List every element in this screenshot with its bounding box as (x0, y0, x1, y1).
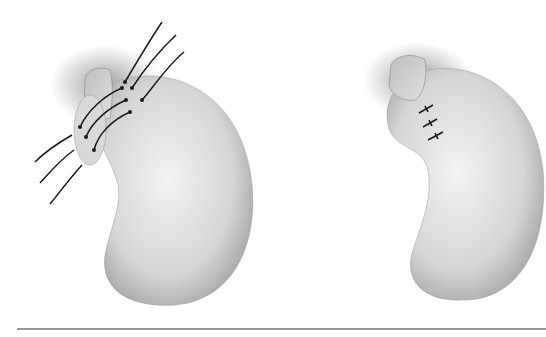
esophagus (389, 55, 426, 100)
panel-sutures-placed (0, 0, 273, 310)
horizontal-rule (17, 328, 546, 330)
stomach-illustration-left (0, 0, 273, 310)
panel-sutures-tied (273, 0, 546, 310)
stomach-illustration-right (273, 0, 546, 310)
stomach-body (98, 76, 253, 305)
stomach-body (387, 68, 544, 300)
